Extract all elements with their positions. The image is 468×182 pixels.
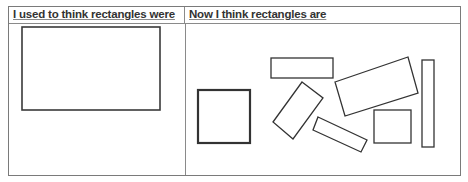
shapes-canvas [0,0,468,182]
long-thin-tilted-rectangle [313,117,367,152]
large-tilted-rectangle [335,57,418,116]
small-upright-rectangle [374,110,411,143]
square-shape [198,90,250,143]
tall-thin-rectangle [422,60,434,147]
top-thin-rectangle [271,58,333,78]
left-rectangle [22,27,160,110]
